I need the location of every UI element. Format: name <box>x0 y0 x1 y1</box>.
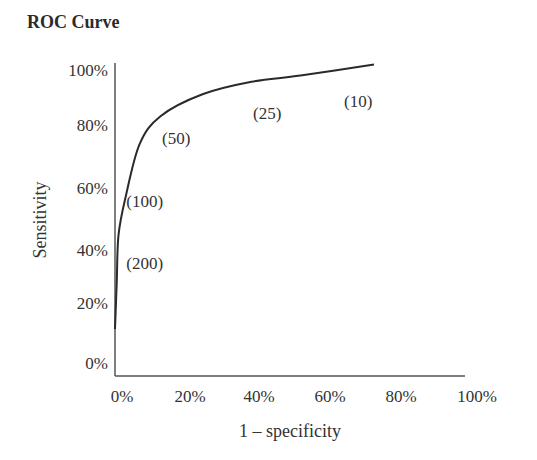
x-tick-label: 20% <box>174 387 205 406</box>
y-tick-label: 100% <box>68 61 108 80</box>
axes <box>115 63 465 376</box>
x-tick-labels: 0%20%40%60%80%100% <box>111 387 497 406</box>
y-tick-label: 0% <box>85 354 108 373</box>
x-tick-label: 60% <box>314 387 345 406</box>
y-tick-label: 20% <box>77 294 108 313</box>
curve-annotation: (200) <box>126 254 163 273</box>
y-axis-label: Sensitivity <box>30 181 50 258</box>
y-tick-label: 80% <box>77 116 108 135</box>
x-axis-label: 1 – specificity <box>239 421 341 441</box>
curve-annotation: (25) <box>253 104 281 123</box>
curve-annotation: (50) <box>162 129 190 148</box>
curve-annotation: (100) <box>126 192 163 211</box>
y-tick-labels: 0%20%40%60%80%100% <box>68 61 108 373</box>
y-tick-label: 40% <box>77 241 108 260</box>
y-tick-label: 60% <box>77 179 108 198</box>
x-tick-label: 100% <box>457 387 497 406</box>
curve-annotation: (10) <box>344 92 372 111</box>
x-tick-label: 80% <box>385 387 416 406</box>
annotations: (200)(100)(50)(25)(10) <box>126 92 372 274</box>
x-tick-label: 40% <box>243 387 274 406</box>
roc-chart: 0%20%40%60%80%100% 0%20%40%60%80%100% (2… <box>0 0 537 460</box>
x-tick-label: 0% <box>111 387 134 406</box>
